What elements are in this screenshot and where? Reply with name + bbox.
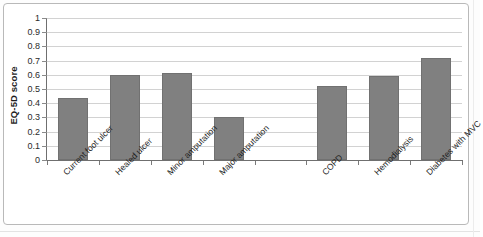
y-axis-tick-label: 0.8: [0, 41, 40, 51]
gridline: [47, 32, 462, 33]
y-axis-tick-mark: [42, 32, 47, 33]
x-axis-tick-mark: [306, 161, 307, 165]
y-axis-tick-label: 1: [0, 13, 40, 23]
bar: [317, 86, 347, 160]
y-axis-tick-label: 0: [0, 155, 40, 165]
bar: [421, 58, 451, 160]
x-axis-tick-mark: [203, 161, 204, 165]
y-axis-tick-mark: [42, 61, 47, 62]
y-axis-tick-label: 0.4: [0, 98, 40, 108]
y-axis-tick-labels: 10.90.80.70.60.50.40.30.20.10: [0, 18, 40, 160]
x-axis-tick-mark: [47, 161, 48, 165]
x-axis-tick-mark: [255, 161, 256, 165]
figure-bottom-edge: [0, 231, 480, 232]
y-axis-tick-label: 0.5: [0, 84, 40, 94]
x-axis-tick-mark: [358, 161, 359, 165]
y-axis-tick-mark: [42, 18, 47, 19]
gridline: [47, 46, 462, 47]
y-axis-tick-mark: [42, 89, 47, 90]
y-axis-tick-mark: [42, 117, 47, 118]
y-axis-tick-label: 0.9: [0, 27, 40, 37]
gridline: [47, 18, 462, 19]
y-axis-tick-mark: [42, 103, 47, 104]
y-axis-tick-label: 0.6: [0, 70, 40, 80]
gridline: [47, 61, 462, 62]
y-axis-tick-label: 0.1: [0, 141, 40, 151]
y-axis-tick-label: 0.2: [0, 127, 40, 137]
y-axis-tick-mark: [42, 146, 47, 147]
y-axis-tick-label: 0.7: [0, 56, 40, 66]
y-axis-tick-label: 0.3: [0, 112, 40, 122]
y-axis-tick-mark: [42, 75, 47, 76]
x-axis-tick-mark: [151, 161, 152, 165]
x-axis-tick-mark: [462, 161, 463, 165]
x-axis-tick-mark: [410, 161, 411, 165]
y-axis-tick-mark: [42, 132, 47, 133]
x-axis-tick-mark: [99, 161, 100, 165]
y-axis-tick-mark: [42, 46, 47, 47]
